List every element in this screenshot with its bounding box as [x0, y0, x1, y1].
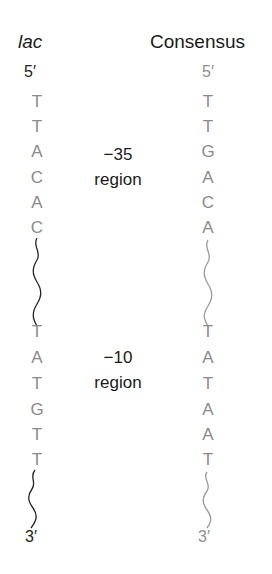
consensus-base: C: [198, 193, 218, 213]
lac-base: A: [27, 348, 47, 368]
consensus-base: T: [198, 322, 218, 342]
minus10-region-label: region: [78, 372, 158, 394]
lac-base: A: [27, 193, 47, 213]
consensus-5-prime: 5′: [202, 63, 214, 81]
consensus-heading: Consensus: [150, 31, 245, 53]
lac-base: G: [27, 400, 47, 420]
lac-spacer-wave-icon: [30, 238, 44, 326]
lac-base: C: [27, 168, 47, 188]
consensus-downstream-wave-icon: [200, 472, 214, 528]
lac-base: T: [27, 117, 47, 137]
minus10-position-label: −10: [78, 347, 158, 369]
minus35-region-label: region: [78, 169, 158, 191]
lac-heading: lac: [18, 31, 42, 53]
consensus-base: T: [198, 450, 218, 470]
lac-5-prime: 5′: [24, 63, 36, 81]
consensus-base: A: [198, 218, 218, 238]
consensus-base: A: [198, 400, 218, 420]
minus35-position-label: −35: [78, 144, 158, 166]
consensus-base: T: [198, 92, 218, 112]
consensus-base: A: [198, 348, 218, 368]
lac-base: T: [27, 425, 47, 445]
lac-downstream-wave-icon: [26, 470, 40, 528]
lac-base: A: [27, 142, 47, 162]
consensus-base: T: [198, 117, 218, 137]
consensus-base: A: [198, 168, 218, 188]
lac-base: T: [27, 450, 47, 470]
lac-base: C: [27, 218, 47, 238]
consensus-base: A: [198, 425, 218, 445]
lac-3-prime: 3′: [25, 528, 37, 546]
consensus-3-prime: 3′: [198, 528, 210, 546]
lac-base: T: [27, 92, 47, 112]
consensus-spacer-wave-icon: [201, 240, 215, 326]
consensus-base: T: [198, 374, 218, 394]
lac-base: T: [27, 374, 47, 394]
consensus-base: G: [198, 142, 218, 162]
lac-base: T: [27, 322, 47, 342]
